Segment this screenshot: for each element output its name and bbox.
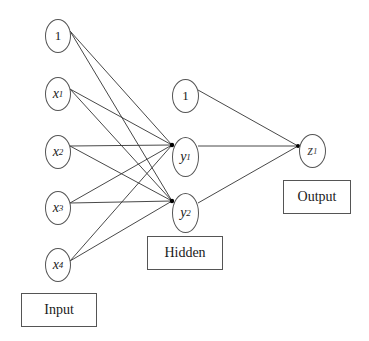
node-subscript: 2 (186, 208, 191, 218)
label-text: Input (44, 302, 74, 318)
edge-h_bias-z1 (198, 90, 298, 146)
edge-x1-y1 (70, 89, 172, 145)
node-input-bias: 1 (45, 19, 71, 53)
node-label: 1 (55, 28, 62, 44)
node-hidden-bias: 1 (172, 79, 199, 113)
node-x2: x2 (45, 135, 71, 169)
node-x3: x3 (45, 191, 71, 225)
node-x4: x4 (45, 248, 71, 282)
node-x1: x1 (45, 77, 71, 111)
node-label: 1 (182, 88, 189, 104)
edge-in_bias-y1 (70, 31, 172, 145)
input-layer-label: Input (21, 293, 97, 327)
edge-x2-y2 (70, 146, 172, 201)
node-subscript: 1 (313, 146, 318, 156)
label-text: Output (298, 189, 337, 205)
node-z1: z1 (299, 134, 326, 168)
node-subscript: 4 (59, 260, 64, 270)
edge-in_bias-y2 (70, 31, 172, 201)
node-y1: y1 (172, 137, 199, 177)
node-subscript: 1 (186, 152, 191, 162)
node-subscript: 3 (59, 203, 64, 213)
hidden-layer-label: Hidden (147, 236, 223, 270)
label-text: Hidden (164, 245, 205, 261)
node-subscript: 2 (59, 147, 64, 157)
neural-network-diagram: 1 x1 x2 x3 x4 1 y1 y2 z1 Input Hidden Ou… (0, 0, 369, 341)
output-layer-label: Output (283, 180, 351, 214)
node-subscript: 1 (59, 89, 64, 99)
node-y2: y2 (172, 193, 199, 233)
